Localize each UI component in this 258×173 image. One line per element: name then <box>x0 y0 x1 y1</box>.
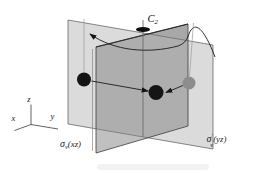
c2-symbol-lens-icon <box>136 27 150 32</box>
x-axis-line <box>15 125 32 131</box>
atom-center <box>149 85 164 100</box>
page-shadow <box>97 164 209 170</box>
atom-left <box>77 73 91 87</box>
xz-plane-label: σv(xz) <box>60 138 81 150</box>
x-axis-label: x <box>11 113 16 123</box>
symmetry-diagram: C2 σv(xz) σ′v(yz) z x y <box>0 0 258 173</box>
yz-plane-label: σ′v(yz) <box>207 132 227 148</box>
symmetry-diagram-canvas: C2 σv(xz) σ′v(yz) z x y <box>0 0 258 173</box>
c2-axis-label: C2 <box>148 13 159 26</box>
z-axis-label: z <box>26 94 31 104</box>
coordinate-triad: z x y <box>11 94 58 131</box>
atom-right <box>183 77 196 90</box>
y-axis-label: y <box>50 111 55 121</box>
y-axis-line <box>31 125 58 130</box>
